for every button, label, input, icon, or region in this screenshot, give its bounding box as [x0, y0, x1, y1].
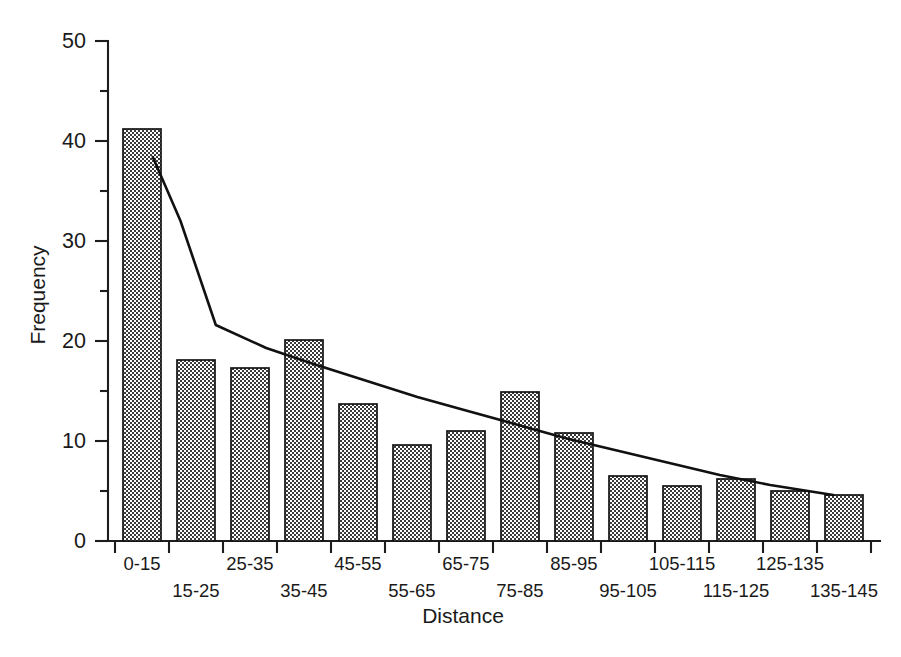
bar: [501, 392, 539, 541]
x-tick-label: 85-95: [550, 553, 597, 574]
bar-series: [123, 129, 863, 541]
y-tick-label: 50: [62, 29, 86, 53]
x-tick-label: 45-55: [334, 553, 381, 574]
x-tick-label: 65-75: [442, 553, 489, 574]
y-tick-label: 40: [62, 129, 86, 153]
x-tick-label: 55-65: [388, 580, 435, 601]
x-tick-label: 15-25: [172, 580, 219, 601]
chart-canvas: 01020304050 0-1515-2525-3535-4545-5555-6…: [0, 0, 901, 657]
bar: [231, 368, 269, 541]
x-tick-label: 75-85: [496, 580, 543, 601]
x-tick-label: 125-135: [756, 553, 824, 574]
x-tick-label: 105-115: [649, 553, 716, 574]
x-tick-label: 0-15: [123, 553, 160, 574]
bar: [717, 479, 755, 541]
x-axis: [108, 541, 880, 553]
bar: [285, 340, 323, 541]
bar: [339, 404, 377, 541]
y-tick-label: 10: [62, 429, 86, 453]
x-tick-label: 95-105: [599, 580, 657, 601]
x-tick-label: 25-35: [226, 553, 273, 574]
bar: [609, 476, 647, 541]
bar: [663, 486, 701, 541]
y-tick-label: 20: [62, 329, 86, 353]
histogram-figure: 01020304050 0-1515-2525-3535-4545-5555-6…: [0, 0, 901, 657]
x-tick-label: 35-45: [280, 580, 327, 601]
bar: [393, 445, 431, 541]
y-tick-label: 0: [74, 529, 86, 553]
bar: [447, 431, 485, 541]
bar: [177, 360, 215, 541]
bar: [825, 495, 863, 541]
y-tick-label: 30: [62, 229, 86, 253]
x-tick-label: 115-125: [703, 580, 770, 601]
x-axis-title: Distance: [422, 604, 504, 627]
bar: [555, 433, 593, 541]
x-tick-label: 135-145: [810, 580, 878, 601]
y-axis-title: Frequency: [26, 245, 49, 345]
bar: [771, 491, 809, 541]
bar: [123, 129, 161, 541]
y-axis: 01020304050: [62, 29, 108, 553]
x-tick-labels: 0-1515-2525-3535-4545-5555-6565-7575-858…: [123, 553, 877, 601]
